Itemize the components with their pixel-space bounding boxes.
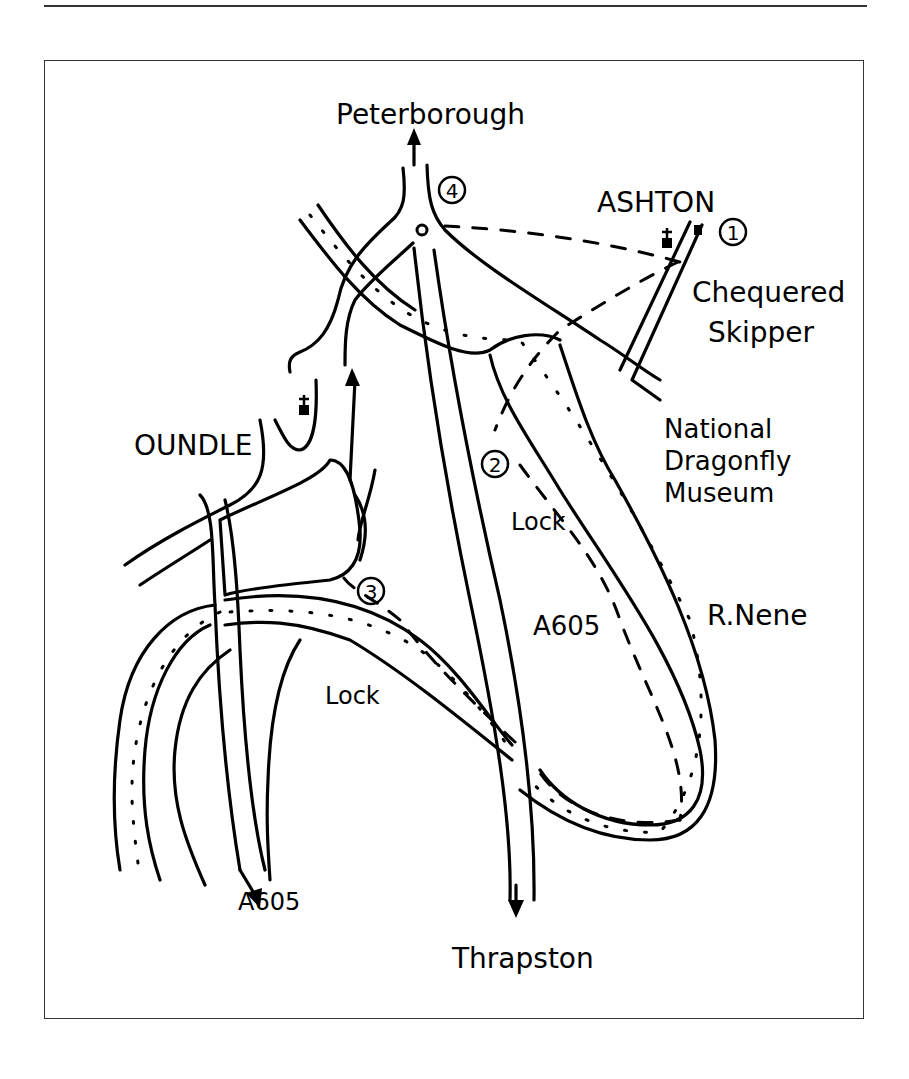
label-lock-upper: Lock — [511, 508, 566, 536]
label-oundle: OUNDLE — [134, 429, 252, 462]
hand-drawn-map: 4 1 2 3 Peterborough ASHTON Chequered Sk… — [0, 0, 909, 1079]
label-lock-lower: Lock — [325, 682, 380, 710]
label-thrapston: Thrapston — [451, 942, 594, 975]
waypoint-1: 1 — [720, 219, 746, 245]
north-arrow-icon — [407, 128, 421, 165]
label-a605-south: A605 — [238, 888, 300, 916]
label-a605-main: A605 — [533, 611, 600, 641]
svg-text:4: 4 — [446, 179, 459, 203]
label-museum: Museum — [664, 478, 774, 508]
church-icon — [299, 395, 309, 415]
waypoint-3: 3 — [358, 578, 384, 604]
waypoint-4: 4 — [439, 177, 465, 203]
road-ashton — [620, 222, 702, 400]
svg-text:3: 3 — [365, 580, 378, 604]
label-chequered: Chequered — [692, 276, 845, 309]
svg-text:1: 1 — [727, 221, 740, 245]
svg-text:2: 2 — [489, 453, 502, 477]
label-river-nene: R.Nene — [707, 599, 808, 632]
road-a605-main — [414, 248, 534, 918]
label-national: National — [664, 414, 772, 444]
label-dragonfly: Dragonfly — [664, 446, 791, 476]
waypoint-2: 2 — [482, 451, 508, 477]
label-peterborough: Peterborough — [336, 98, 525, 131]
label-skipper: Skipper — [708, 316, 815, 349]
label-ashton: ASHTON — [597, 186, 715, 219]
